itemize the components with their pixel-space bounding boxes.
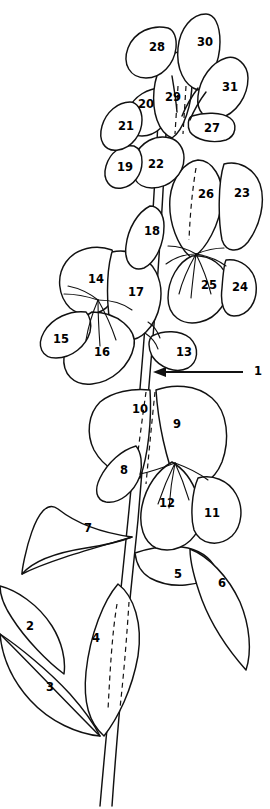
label-5: 5 xyxy=(174,567,182,581)
label-27: 27 xyxy=(204,121,220,135)
flower-middle xyxy=(89,386,241,550)
label-8: 8 xyxy=(120,463,128,477)
label-28: 28 xyxy=(149,40,165,54)
label-11: 11 xyxy=(204,506,220,520)
label-31: 31 xyxy=(222,80,238,94)
flower-upper xyxy=(166,160,262,323)
label-7: 7 xyxy=(84,521,92,535)
label-16: 16 xyxy=(94,345,110,359)
label-23: 23 xyxy=(234,186,250,200)
label-3: 3 xyxy=(46,680,54,694)
label-29: 29 xyxy=(165,90,181,104)
label-24: 24 xyxy=(232,280,248,294)
label-20: 20 xyxy=(138,97,154,111)
label-17: 17 xyxy=(128,285,144,299)
label-9: 9 xyxy=(173,417,181,431)
label-1: 1 xyxy=(254,364,262,378)
label-13: 13 xyxy=(176,345,192,359)
label-19: 19 xyxy=(117,160,133,174)
botanical-line-drawing: 1 2 3 4 5 6 7 8 9 10 11 12 13 14 15 16 1… xyxy=(0,0,270,809)
label-21: 21 xyxy=(118,119,134,133)
label-4: 4 xyxy=(92,631,100,645)
label-25: 25 xyxy=(201,278,217,292)
label-2: 2 xyxy=(26,619,34,633)
label-15: 15 xyxy=(53,332,69,346)
label-6: 6 xyxy=(218,576,226,590)
label-26: 26 xyxy=(198,187,214,201)
label-18: 18 xyxy=(144,224,160,238)
label-10: 10 xyxy=(132,402,148,416)
label-12: 12 xyxy=(159,496,175,510)
label-14: 14 xyxy=(88,272,104,286)
label-30: 30 xyxy=(197,35,213,49)
botanical-figure: 1 2 3 4 5 6 7 8 9 10 11 12 13 14 15 16 1… xyxy=(0,0,270,809)
label-22: 22 xyxy=(148,157,164,171)
